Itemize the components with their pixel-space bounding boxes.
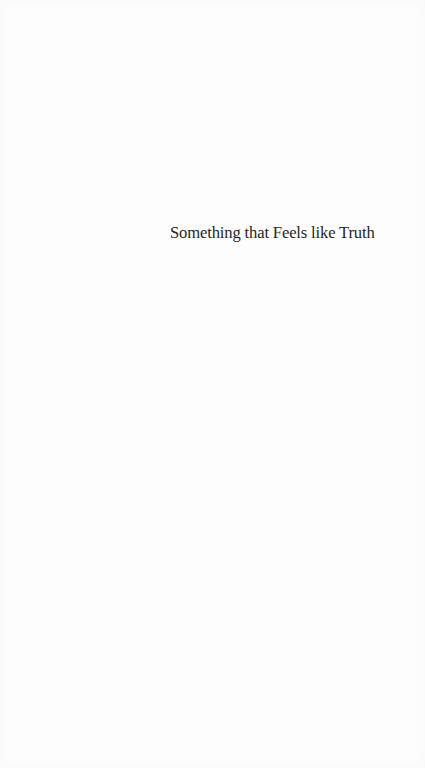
- half-title: Something that Feels like Truth: [170, 222, 360, 244]
- book-page: Something that Feels like Truth: [0, 0, 425, 768]
